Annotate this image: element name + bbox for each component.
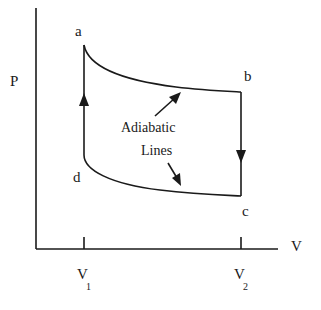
point-d-label: d xyxy=(73,169,81,185)
v2-label: V xyxy=(234,266,245,282)
pv-diagram: P V V 1 V 2 a b c d Adiabatic Lines xyxy=(0,0,321,310)
v2-subscript: 2 xyxy=(243,281,248,292)
y-axis-label: P xyxy=(10,73,18,89)
annotation-adiabatic: Adiabatic xyxy=(121,120,175,135)
point-a-label: a xyxy=(75,23,82,39)
pointer-arrow-lower-icon xyxy=(172,173,181,186)
adiabatic-curve-dc xyxy=(84,155,241,196)
up-arrow-icon xyxy=(79,93,89,106)
x-axis-label: V xyxy=(291,238,302,254)
point-c-label: c xyxy=(242,203,249,219)
point-b-label: b xyxy=(244,68,252,84)
down-arrow-icon xyxy=(236,150,246,163)
adiabatic-curve-ab xyxy=(84,45,241,92)
annotation-lines: Lines xyxy=(141,143,172,158)
pointer-line-upper xyxy=(155,98,175,116)
v1-subscript: 1 xyxy=(86,281,91,292)
v1-label: V xyxy=(77,266,88,282)
